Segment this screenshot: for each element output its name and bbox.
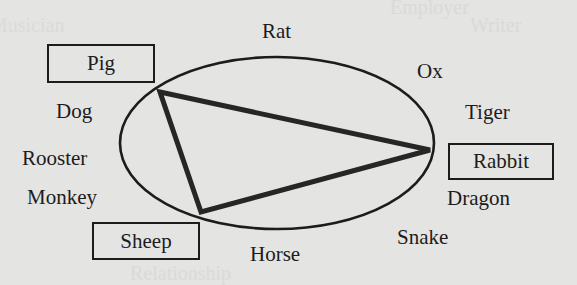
label-dog: Dog (56, 101, 92, 122)
label-sheep-boxed: Sheep (92, 222, 200, 260)
label-snake: Snake (397, 227, 448, 248)
label-sheep: Sheep (120, 229, 171, 254)
label-rooster: Rooster (22, 148, 87, 169)
label-rabbit: Rabbit (473, 149, 529, 174)
compatibility-triangle (160, 92, 430, 212)
label-pig-boxed: Pig (47, 44, 155, 83)
label-rabbit-boxed: Rabbit (448, 143, 554, 180)
label-ox: Ox (417, 61, 443, 82)
label-rat: Rat (262, 21, 291, 42)
label-monkey: Monkey (27, 187, 97, 208)
label-pig: Pig (87, 51, 115, 76)
label-tiger: Tiger (465, 102, 510, 123)
label-dragon: Dragon (447, 188, 510, 209)
label-horse: Horse (250, 244, 300, 265)
